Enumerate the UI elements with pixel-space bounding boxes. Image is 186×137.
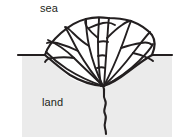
river-delta-figure: sea land bbox=[0, 0, 186, 137]
label-sea: sea bbox=[40, 3, 58, 14]
distributary-18 bbox=[98, 41, 108, 42]
label-land: land bbox=[42, 97, 63, 108]
distributary-19 bbox=[98, 55, 106, 56]
delta-diagram-svg bbox=[0, 0, 186, 137]
land-fill-lower bbox=[22, 86, 172, 137]
distributary-20 bbox=[97, 67, 105, 68]
